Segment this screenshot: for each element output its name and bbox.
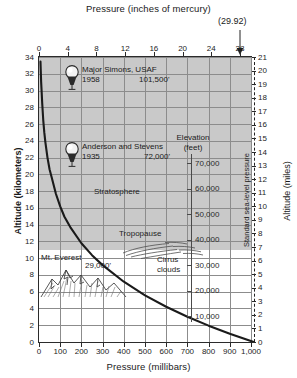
bottom-tick-mark bbox=[81, 343, 82, 347]
bottom-tick-label: 1,000 bbox=[238, 347, 264, 356]
bottom-tick-mark bbox=[166, 343, 167, 347]
elevation-tick-mark bbox=[187, 214, 191, 215]
right-tick-label: 8 bbox=[258, 229, 272, 238]
right-tick-mark bbox=[252, 179, 256, 180]
right-tick-mark bbox=[252, 193, 256, 194]
right-tick-label: 1 bbox=[258, 324, 272, 333]
right-tick-label: 5 bbox=[258, 270, 272, 279]
top-tick-mark bbox=[240, 52, 241, 56]
top-tick-mark bbox=[96, 52, 97, 56]
right-tick-mark bbox=[252, 274, 256, 275]
elevation-tick-label: 10,000 bbox=[195, 312, 219, 321]
left-tick-label: 6 bbox=[16, 287, 34, 296]
cirrus-clouds-label: Cirrus clouds bbox=[157, 255, 180, 274]
bottom-axis-title: Pressure (millibars) bbox=[0, 361, 297, 372]
standard-sea-level-pressure-line bbox=[254, 57, 255, 342]
left-tick-label: 26 bbox=[16, 120, 34, 129]
bottom-tick-mark bbox=[230, 343, 231, 347]
elevation-axis-title-line2: (feet) bbox=[169, 143, 217, 153]
balloon-icon bbox=[64, 142, 80, 168]
left-tick-label: 8 bbox=[16, 270, 34, 279]
top-tick-mark bbox=[68, 52, 69, 56]
cirrus-label-line1: Cirrus bbox=[157, 255, 180, 265]
left-tick-label: 4 bbox=[16, 304, 34, 313]
elevation-tick-label: 30,000 bbox=[195, 261, 219, 270]
right-tick-label: 3 bbox=[258, 297, 272, 306]
stratosphere-label: Stratosphere bbox=[94, 187, 140, 196]
left-tick-label: 2 bbox=[16, 321, 34, 330]
left-tick-label: 32 bbox=[16, 69, 34, 78]
cirrus-label-line2: clouds bbox=[157, 265, 180, 275]
right-tick-label: 13 bbox=[258, 161, 272, 170]
bottom-tick-mark bbox=[209, 343, 210, 347]
right-tick-label: 9 bbox=[258, 215, 272, 224]
bottom-tick-mark bbox=[103, 343, 104, 347]
right-tick-label: 18 bbox=[258, 93, 272, 102]
chart-figure: Pressure (inches of mercury) (29.92) 048… bbox=[0, 0, 297, 378]
elevation-tick-label: 20,000 bbox=[195, 286, 219, 295]
elevation-axis-title-line1: Elevation bbox=[169, 133, 217, 143]
balloon-anderson-name: Anderson and Stevens bbox=[82, 142, 163, 152]
right-tick-mark bbox=[252, 247, 256, 248]
right-tick-mark bbox=[252, 111, 256, 112]
right-tick-mark bbox=[252, 138, 256, 139]
tropopause-label: Tropopause bbox=[119, 229, 161, 238]
elevation-tick-label: 50,000 bbox=[195, 210, 219, 219]
right-tick-mark bbox=[252, 301, 256, 302]
right-tick-mark bbox=[252, 166, 256, 167]
mt-everest-label: Mt. Everest bbox=[41, 253, 81, 263]
right-tick-mark bbox=[252, 71, 256, 72]
elevation-axis-line bbox=[191, 154, 192, 322]
gridline-vertical bbox=[251, 57, 252, 342]
right-tick-label: 12 bbox=[258, 175, 272, 184]
balloon-simons-name: Major Simons, USAF bbox=[82, 65, 157, 75]
bottom-tick-mark bbox=[60, 343, 61, 347]
plot-area: Elevation (feet) 10,00020,00030,00040,00… bbox=[38, 56, 252, 343]
mountain-icon bbox=[40, 263, 128, 303]
elevation-tick-mark bbox=[187, 316, 191, 317]
right-tick-mark bbox=[252, 125, 256, 126]
elevation-tick-mark bbox=[187, 265, 191, 266]
elevation-tick-mark bbox=[187, 291, 191, 292]
left-axis-title: Altitude (kilometers) bbox=[13, 136, 23, 246]
right-tick-mark bbox=[252, 328, 256, 329]
standard-sea-level-pressure-label: Standard sea-level pressure bbox=[242, 153, 251, 247]
right-tick-label: 4 bbox=[258, 283, 272, 292]
right-tick-mark bbox=[252, 342, 256, 343]
right-axis-title: Altitude (miles) bbox=[282, 136, 292, 246]
right-tick-label: 14 bbox=[258, 148, 272, 157]
right-tick-mark bbox=[252, 261, 256, 262]
right-tick-label: 2 bbox=[258, 310, 272, 319]
bottom-tick-mark bbox=[145, 343, 146, 347]
right-tick-mark bbox=[252, 315, 256, 316]
right-tick-label: 10 bbox=[258, 202, 272, 211]
top-tick-mark bbox=[154, 52, 155, 56]
right-tick-label: 17 bbox=[258, 107, 272, 116]
left-tick-label: 0 bbox=[16, 338, 34, 347]
right-tick-mark bbox=[252, 206, 256, 207]
bottom-tick-mark bbox=[187, 343, 188, 347]
right-tick-label: 15 bbox=[258, 134, 272, 143]
right-tick-label: 7 bbox=[258, 243, 272, 252]
balloon-simons-altitude: 101,500' bbox=[139, 75, 169, 85]
elevation-tick-mark bbox=[187, 163, 191, 164]
std-pressure-value: (29.92) bbox=[218, 16, 247, 26]
bottom-tick-mark bbox=[124, 343, 125, 347]
right-tick-mark bbox=[252, 57, 256, 58]
right-tick-label: 11 bbox=[258, 188, 272, 197]
left-tick-label: 30 bbox=[16, 86, 34, 95]
right-tick-mark bbox=[252, 84, 256, 85]
right-tick-mark bbox=[252, 98, 256, 99]
right-tick-label: 19 bbox=[258, 80, 272, 89]
left-tick-label: 34 bbox=[16, 53, 34, 62]
right-tick-mark bbox=[252, 152, 256, 153]
elevation-tick-mark bbox=[187, 189, 191, 190]
bottom-tick-mark bbox=[251, 343, 252, 347]
elevation-axis-title: Elevation (feet) bbox=[169, 133, 217, 152]
top-tick-mark bbox=[125, 52, 126, 56]
right-tick-mark bbox=[252, 288, 256, 289]
right-tick-label: 6 bbox=[258, 256, 272, 265]
top-axis-title: Pressure (inches of mercury) bbox=[0, 3, 297, 14]
right-tick-mark bbox=[252, 233, 256, 234]
elevation-tick-label: 70,000 bbox=[195, 159, 219, 168]
